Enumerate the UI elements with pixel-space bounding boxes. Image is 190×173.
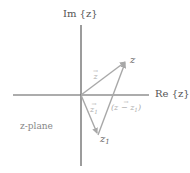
point-z-label: z xyxy=(130,55,135,65)
point-z1-subscript: 1 xyxy=(105,138,109,146)
vector-diff-open: (z − z xyxy=(111,103,134,112)
vector-z-label: → z xyxy=(93,68,98,81)
plane-label: z-plane xyxy=(20,122,53,131)
vector-z xyxy=(81,62,125,95)
vector-z1-subscript: 1 xyxy=(94,109,98,115)
vector-diff-close: ) xyxy=(138,103,141,112)
vector-z-text: z xyxy=(93,72,97,81)
vector-z1-label: → z1 xyxy=(90,101,98,116)
point-z1-label: z1 xyxy=(100,134,110,146)
imaginary-axis-label: Im {z} xyxy=(63,9,98,19)
vector-difference-label: → (z − z1) xyxy=(111,99,141,114)
diagram-svg xyxy=(0,0,190,173)
complex-plane-diagram: Im {z} Re {z} z z1 → z → z1 → (z − z1) z… xyxy=(0,0,190,173)
real-axis-label: Re {z} xyxy=(155,89,190,99)
